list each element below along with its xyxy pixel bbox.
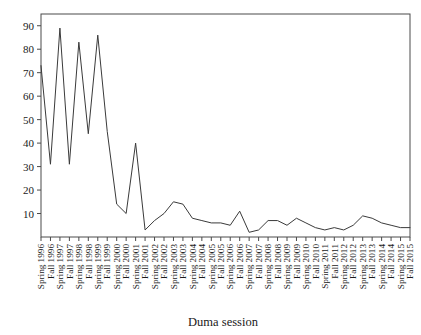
- x-tick-label: Fall 2015: [405, 244, 415, 279]
- y-tick-label: 40: [23, 137, 35, 149]
- y-tick-label: 90: [23, 20, 35, 32]
- x-axis-tick-labels: Spring 1996Fall 1996Spring 1997Fall 1997…: [36, 244, 415, 290]
- y-tick-label: 50: [23, 114, 35, 126]
- y-tick-label: 10: [23, 208, 35, 220]
- y-tick-label: 60: [23, 90, 35, 102]
- x-axis-title: Duma session: [188, 315, 259, 329]
- y-tick-label: 30: [23, 161, 35, 173]
- chart-container: 102030405060708090 Spring 1996Fall 1996S…: [0, 0, 421, 335]
- y-tick-label: 80: [23, 43, 35, 55]
- y-tick-label: 70: [23, 67, 35, 79]
- y-axis-tick-labels: 102030405060708090: [23, 20, 35, 220]
- line-chart: 102030405060708090 Spring 1996Fall 1996S…: [0, 0, 421, 335]
- y-tick-label: 20: [23, 184, 35, 196]
